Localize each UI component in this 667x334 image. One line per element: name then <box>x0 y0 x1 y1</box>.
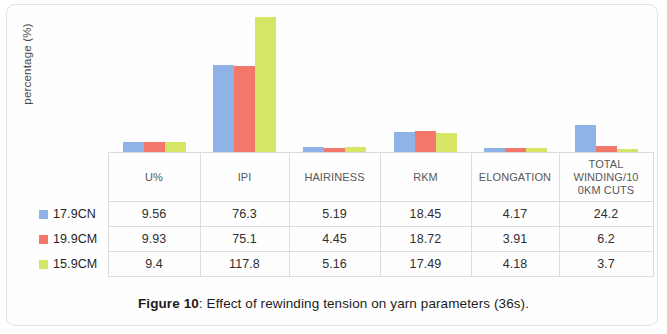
legend-label: 17.9CN <box>53 207 96 221</box>
y-axis-title: percentage (%) <box>21 0 33 139</box>
legend-label: 19.9CM <box>53 232 97 246</box>
table-row: 17.9CN9.5676.35.1918.454.1724.2 <box>33 202 653 227</box>
column-header-total-winding-cuts: TOTALWINDING/100KM CUTS <box>559 153 653 202</box>
bar-group-u <box>108 14 200 153</box>
figure-screenshot: percentage (%) U% IPI HAIRINESS RKM <box>0 0 667 334</box>
table-cell: 5.19 <box>289 202 380 227</box>
legend-label: 15.9CM <box>53 257 97 271</box>
table-cell: 18.72 <box>380 227 471 252</box>
table-row: 19.9CM9.9375.14.4518.723.916.2 <box>33 227 653 252</box>
table-header-row: U% IPI HAIRINESS RKM ELONGATION TOTALWIN… <box>33 153 653 202</box>
column-header-rkm: RKM <box>380 153 471 202</box>
bar-19.9cm-1 <box>234 66 255 153</box>
table-cell: 6.2 <box>559 227 653 252</box>
bar-group-ipi <box>200 14 289 153</box>
column-header-ipi: IPI <box>200 153 289 202</box>
table-cell: 9.56 <box>108 202 200 227</box>
table-corner-cell <box>33 153 108 202</box>
table-cell: 18.45 <box>380 202 471 227</box>
bar-group-rkm <box>380 14 471 153</box>
bar-15.9cm-3 <box>436 133 457 153</box>
figure-number: Figure 10 <box>138 296 199 311</box>
table-cell: 4.45 <box>289 227 380 252</box>
bar-17.9cn-1 <box>213 65 234 153</box>
bar-group-elongation <box>471 14 559 153</box>
figure-caption: Figure 10: Effect of rewinding tension o… <box>0 296 667 311</box>
table-cell: 9.4 <box>108 252 200 277</box>
bar-group-hairiness <box>289 14 380 153</box>
data-table: U% IPI HAIRINESS RKM ELONGATION TOTALWIN… <box>33 152 654 277</box>
table-cell: 4.17 <box>471 202 559 227</box>
column-header-u-percent: U% <box>108 153 200 202</box>
legend-swatch-icon <box>39 235 48 244</box>
bar-19.9cm-3 <box>415 131 436 153</box>
bar-group-total-winding-100km-cuts <box>559 14 653 153</box>
column-header-elongation: ELONGATION <box>471 153 559 202</box>
bar-17.9cn-3 <box>394 132 415 153</box>
data-table-wrapper: U% IPI HAIRINESS RKM ELONGATION TOTALWIN… <box>33 152 613 277</box>
table-cell: 3.7 <box>559 252 653 277</box>
table-cell: 3.91 <box>471 227 559 252</box>
legend-entry-1: 17.9CN <box>33 202 108 227</box>
table-cell: 75.1 <box>200 227 289 252</box>
legend-entry-3: 15.9CM <box>33 252 108 277</box>
table-cell: 9.93 <box>108 227 200 252</box>
table-row: 15.9CM9.4117.85.1617.494.183.7 <box>33 252 653 277</box>
column-header-hairiness: HAIRINESS <box>289 153 380 202</box>
table-cell: 117.8 <box>200 252 289 277</box>
legend-entry-2: 19.9CM <box>33 227 108 252</box>
table-cell: 5.16 <box>289 252 380 277</box>
table-cell: 17.49 <box>380 252 471 277</box>
table-cell: 24.2 <box>559 202 653 227</box>
bar-chart-plot <box>108 14 613 153</box>
bar-17.9cn-5 <box>575 125 596 153</box>
table-cell: 4.18 <box>471 252 559 277</box>
legend-swatch-icon <box>39 260 48 269</box>
table-body: 17.9CN9.5676.35.1918.454.1724.219.9CM9.9… <box>33 202 653 277</box>
bar-15.9cm-1 <box>255 17 276 153</box>
table-cell: 76.3 <box>200 202 289 227</box>
legend-swatch-icon <box>39 210 48 219</box>
figure-caption-text: Effect of rewinding tension on yarn para… <box>203 296 529 311</box>
